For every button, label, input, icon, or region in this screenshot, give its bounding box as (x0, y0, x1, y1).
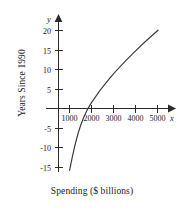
chart-plot-area: 1000 2000 3000 4000 5000 -15 -10 -5 5 10… (0, 0, 184, 208)
y-tick-label: 15 (43, 47, 51, 56)
x-tick-label: 3000 (106, 114, 122, 123)
x-axis-variable-label: x (169, 113, 174, 123)
x-tick-label: 1000 (62, 114, 78, 123)
y-axis-variable-label: y (46, 14, 51, 24)
y-tick-label: 5 (47, 86, 51, 95)
y-axis-arrow-icon (55, 14, 63, 22)
x-axis-arrow-icon (168, 105, 176, 113)
y-tick-label: -10 (40, 144, 51, 153)
x-tick-label: 4000 (128, 114, 144, 123)
y-tick-label: 20 (43, 27, 51, 36)
x-axis-title: Spending ($ billions) (0, 186, 184, 196)
x-tick-label: 2000 (84, 114, 100, 123)
y-tick-label: -15 (40, 164, 51, 173)
x-tick-label: 5000 (150, 114, 166, 123)
y-tick-label: -5 (44, 125, 51, 134)
data-curve (70, 30, 158, 170)
y-axis-title: Years Since 1990 (17, 13, 27, 153)
chart-figure: 1000 2000 3000 4000 5000 -15 -10 -5 5 10… (0, 0, 184, 208)
y-tick-label: 10 (43, 66, 51, 75)
